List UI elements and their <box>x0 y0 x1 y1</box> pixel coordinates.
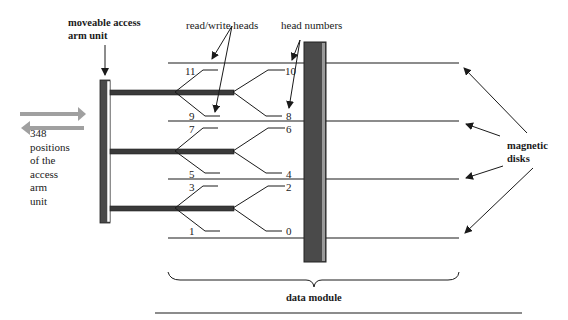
head-numbers-label: head numbers <box>281 19 342 32</box>
head-number-9: 9 <box>189 110 195 122</box>
head-number-4: 4 <box>286 168 292 180</box>
head-number-10: 10 <box>285 65 296 77</box>
data-module-label: data module <box>286 291 342 304</box>
arm-bottom <box>110 206 234 211</box>
disks-arrow-4 <box>465 168 533 233</box>
arm-top <box>110 90 234 95</box>
head-number-3: 3 <box>189 181 195 193</box>
positions-label: 348 positions of the access arm unit <box>30 127 70 209</box>
disk-pack-diagram <box>0 0 568 320</box>
disks-arrow-2 <box>466 124 500 136</box>
arm-unit-label: moveable access arm unit <box>68 16 141 42</box>
arm-middle <box>110 149 234 154</box>
head-number-6: 6 <box>286 123 292 135</box>
data-module-brace <box>168 272 459 287</box>
head-number-5: 5 <box>189 168 195 180</box>
head-number-1: 1 <box>189 225 195 237</box>
disks-arrow-3 <box>466 166 503 178</box>
spindle <box>304 42 326 262</box>
magnetic-disks-label: magnetic disks <box>507 139 548 165</box>
disks-arrow-1 <box>464 68 527 133</box>
head-number-0: 0 <box>286 225 292 237</box>
head-number-2: 2 <box>286 181 292 193</box>
access-arm-unit <box>100 80 110 223</box>
rw-heads-label: read/write heads <box>186 19 258 32</box>
head-number-8: 8 <box>286 110 292 122</box>
head-number-7: 7 <box>189 123 195 135</box>
rw-heads-arrow-2 <box>215 26 232 112</box>
head-number-11: 11 <box>185 65 196 77</box>
